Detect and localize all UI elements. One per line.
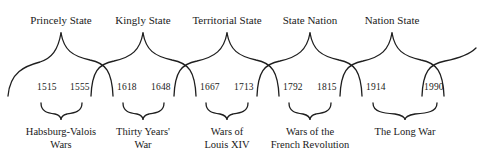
state-evolution-diagram: Princely State Kingly State Territorial … xyxy=(0,0,484,160)
year-label: 1648 xyxy=(151,82,171,92)
war-label-line1: The Long War xyxy=(375,126,436,139)
war-label-line1: Thirty Years' xyxy=(116,126,170,139)
war-label-louis-xiv: Wars of Louis XIV xyxy=(204,126,249,151)
year-label: 1555 xyxy=(70,82,90,92)
state-label-princely: Princely State xyxy=(30,14,91,26)
state-label-nation-state: Nation State xyxy=(365,14,420,26)
state-label-territorial: Territorial State xyxy=(192,14,261,26)
war-label-line2: French Revolution xyxy=(271,139,349,152)
war-label-line1: Wars of the xyxy=(271,126,349,139)
war-brace-thirty-years xyxy=(123,103,164,120)
war-label-line1: Habsburg-Valois xyxy=(26,126,96,139)
war-brace-habsburg xyxy=(41,103,82,120)
war-brace-long-war xyxy=(373,103,437,120)
year-label: 1815 xyxy=(317,82,337,92)
war-label-long-war: The Long War xyxy=(375,126,436,139)
war-label-thirty-years: Thirty Years' War xyxy=(116,126,170,151)
year-label: 1792 xyxy=(283,82,303,92)
war-label-line1: Wars of xyxy=(204,126,249,139)
war-label-line2: Louis XIV xyxy=(204,139,249,152)
war-label-line2: Wars xyxy=(26,139,96,152)
war-label-habsburg-valois: Habsburg-Valois Wars xyxy=(26,126,96,151)
state-label-state-nation: State Nation xyxy=(283,14,338,26)
war-label-line2: War xyxy=(116,139,170,152)
year-label: 1618 xyxy=(117,82,137,92)
year-label: 1713 xyxy=(234,82,254,92)
state-label-kingly: Kingly State xyxy=(115,14,170,26)
year-label: 1990 xyxy=(424,82,444,92)
year-label: 1914 xyxy=(366,82,386,92)
war-brace-louis xyxy=(206,103,248,120)
war-brace-french xyxy=(289,103,331,120)
war-label-french-revolution: Wars of the French Revolution xyxy=(271,126,349,151)
year-label: 1515 xyxy=(37,82,57,92)
year-label: 1667 xyxy=(200,82,220,92)
